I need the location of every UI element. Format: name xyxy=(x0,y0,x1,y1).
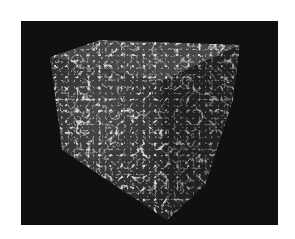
cube xyxy=(40,35,250,225)
cube-volume-rendering xyxy=(0,0,295,239)
filament-texture xyxy=(40,35,250,225)
